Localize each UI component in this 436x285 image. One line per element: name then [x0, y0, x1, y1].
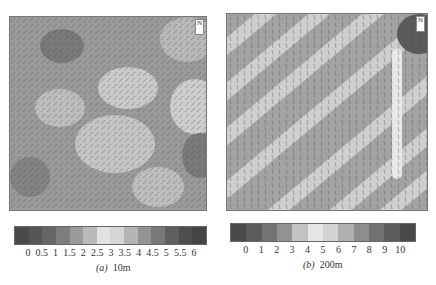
colorbar-cell: [231, 224, 246, 241]
contour-plot-a: N: [9, 16, 207, 211]
colorbar-tick-label: 3: [104, 247, 118, 258]
colorbar-cell: [110, 227, 124, 244]
colorbar-tick-label: 4: [132, 247, 146, 258]
colorbar-tick-label: 1: [253, 244, 268, 255]
colorbar-tick-label: 4.5: [146, 247, 160, 258]
colorbar-cell: [165, 227, 179, 244]
north-marker: N: [195, 19, 204, 35]
colorbar-cell: [29, 227, 43, 244]
colorbar-cell: [15, 227, 29, 244]
colorbar-cell: [246, 224, 261, 241]
colorbar-cell: [384, 224, 399, 241]
colorbar-tick-label: 5.5: [173, 247, 187, 258]
colorbar-tick-label: 8: [362, 244, 377, 255]
colorbar-cell: [124, 227, 138, 244]
colorbar-cell: [354, 224, 369, 241]
vector-field: [10, 17, 206, 210]
vector-field: [227, 14, 427, 210]
colorbar-tick-label: 0: [238, 244, 253, 255]
colorbar-tick-label: 3.5: [118, 247, 132, 258]
colorbar-cell: [97, 227, 111, 244]
colorbar-cell: [70, 227, 84, 244]
colorbar-tick-label: 9: [377, 244, 392, 255]
panel-caption-a: 10m: [113, 262, 131, 273]
colorbar-cell: [192, 227, 206, 244]
colorbar-tick-label: 0: [21, 247, 35, 258]
colorbar-b: [230, 223, 416, 242]
contour-plot-b: N: [226, 13, 428, 211]
colorbar-tick-label: 6: [331, 244, 346, 255]
colorbar-cell: [400, 224, 415, 241]
panel-label-b: (b): [303, 259, 315, 270]
colorbar-tick-label: 2: [76, 247, 90, 258]
colorbar-tick-label: 7: [346, 244, 361, 255]
colorbar-cell: [277, 224, 292, 241]
colorbar-tick-label: 4: [300, 244, 315, 255]
colorbar-cell: [138, 227, 152, 244]
colorbar-cell: [151, 227, 165, 244]
colorbar-cell: [369, 224, 384, 241]
colorbar-tick-label: 0.5: [35, 247, 49, 258]
caption-a: (a) 10m: [96, 262, 130, 273]
colorbar-cell: [262, 224, 277, 241]
colorbar-tick-label: 5: [315, 244, 330, 255]
colorbar-cell: [56, 227, 70, 244]
colorbar-tick-label: 2: [269, 244, 284, 255]
colorbar-tick-label: 2.5: [90, 247, 104, 258]
colorbar-b-ticks: 012345678910: [238, 244, 408, 255]
colorbar-tick-label: 10: [393, 244, 408, 255]
colorbar-cell: [179, 227, 193, 244]
colorbar-tick-label: 1.5: [63, 247, 77, 258]
colorbar-cell: [42, 227, 56, 244]
colorbar-cell: [308, 224, 323, 241]
colorbar-cell: [338, 224, 353, 241]
colorbar-tick-label: 1: [49, 247, 63, 258]
panel-label-a: (a): [96, 262, 108, 273]
colorbar-a: [14, 226, 207, 245]
colorbar-tick-label: 3: [284, 244, 299, 255]
colorbar-cell: [292, 224, 307, 241]
panel-caption-b: 200m: [320, 259, 343, 270]
caption-b: (b) 200m: [303, 259, 342, 270]
colorbar-tick-label: 6: [187, 247, 201, 258]
colorbar-tick-label: 5: [159, 247, 173, 258]
north-marker: N: [416, 16, 425, 32]
colorbar-a-ticks: 00.511.522.533.544.555.56: [21, 247, 201, 258]
colorbar-cell: [83, 227, 97, 244]
colorbar-cell: [323, 224, 338, 241]
